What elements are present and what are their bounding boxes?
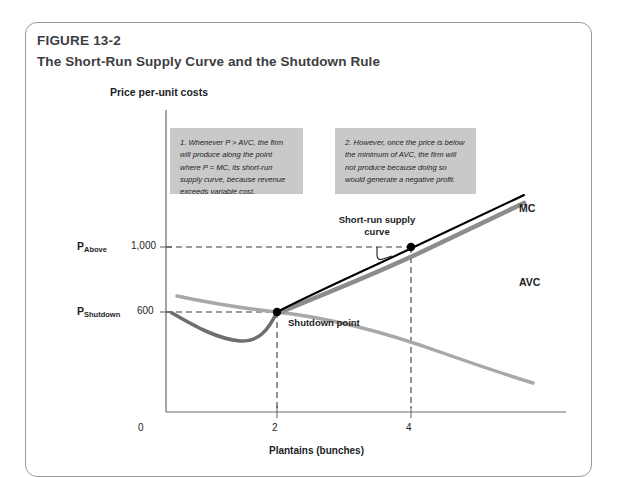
figure-number: FIGURE 13-2: [37, 33, 121, 48]
x-axis-title: Plantains (bunches): [269, 445, 364, 456]
p-above-symbol: P: [77, 240, 84, 252]
curve-label-mc: MC: [519, 202, 535, 214]
price-marker-shutdown: PShutdown: [77, 305, 120, 317]
p-shutdown-subscript: Shutdown: [84, 310, 120, 319]
p-above-subscript: Above: [84, 245, 107, 254]
x-tick-label-4: 4: [406, 422, 412, 433]
annotation-box-2: 2. However, once the price is below the …: [335, 128, 476, 194]
annotation-box-1: 1. Whenever P > AVC, the firm will produ…: [170, 128, 303, 194]
price-marker-above: PAbove: [77, 240, 107, 252]
x-tick-label-2: 2: [272, 422, 278, 433]
y-axis-title: Price per-unit costs: [110, 86, 208, 98]
curve-label-short-run-supply-curve: Short-run supply curve: [334, 214, 420, 238]
x-tick-label-0: 0: [138, 422, 144, 433]
curve-label-avc: AVC: [519, 276, 540, 288]
label-shutdown-point: Shutdown point: [288, 317, 360, 328]
y-tick-label-1000: 1,000: [131, 240, 156, 251]
p-shutdown-symbol: P: [77, 305, 84, 317]
y-tick-label-600: 600: [137, 305, 154, 316]
figure-title: The Short-Run Supply Curve and the Shutd…: [37, 54, 380, 69]
